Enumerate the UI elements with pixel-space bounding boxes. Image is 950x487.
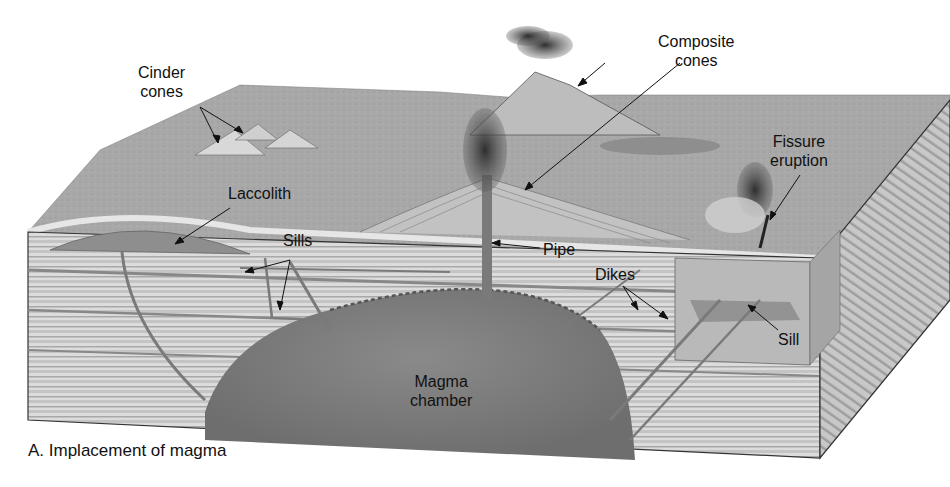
label-composite-cones-line1: Composite: [658, 32, 734, 51]
label-cinder-cones-line1: Cinder: [138, 63, 185, 82]
label-cinder-cones-line2: cones: [138, 82, 185, 101]
label-pipe: Pipe: [543, 240, 575, 259]
label-fissure-eruption-line1: Fissure: [770, 132, 828, 151]
label-sill: Sill: [778, 330, 799, 349]
label-dikes: Dikes: [595, 265, 635, 284]
label-cinder-cones: Cinder cones: [138, 63, 185, 101]
volcano-cross-section-diagram: Cinder cones Composite cones Fissure eru…: [0, 0, 950, 487]
label-fissure-eruption: Fissure eruption: [770, 132, 828, 170]
label-laccolith: Laccolith: [228, 184, 291, 203]
central-eruption-smoke: [463, 108, 507, 192]
label-magma-chamber-line1: Magma: [410, 372, 472, 391]
pipe-conduit: [482, 175, 492, 300]
label-sills: Sills: [283, 231, 312, 250]
label-composite-cones: Composite cones: [658, 32, 734, 70]
label-fissure-eruption-line2: eruption: [770, 151, 828, 170]
label-magma-chamber-line2: chamber: [410, 391, 472, 410]
figure-caption: A. Implacement of magma: [28, 441, 226, 461]
label-magma-chamber: Magma chamber: [410, 372, 472, 410]
label-composite-cones-line2: cones: [658, 51, 734, 70]
